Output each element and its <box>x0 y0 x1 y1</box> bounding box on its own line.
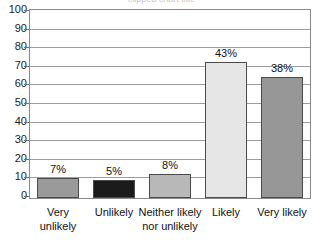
bar-value-label: 38% <box>254 62 310 74</box>
clipped-title-artifact: clipped chart title <box>0 0 323 7</box>
x-axis-category-label: Very likely <box>246 205 318 219</box>
bar[interactable] <box>93 180 136 198</box>
y-axis-tick-mark <box>24 29 29 30</box>
bar-value-label: 5% <box>86 165 142 177</box>
bar-chart: clipped chart title 10090807060504030201… <box>0 0 323 242</box>
y-axis-tick-mark <box>24 47 29 48</box>
y-axis-tick-mark <box>24 103 29 104</box>
bar[interactable] <box>261 77 304 198</box>
x-axis-label-line1: Very likely <box>257 206 307 218</box>
bar-slot: 38% <box>254 10 310 198</box>
bar[interactable] <box>37 178 80 198</box>
y-axis-tick-mark <box>24 177 29 178</box>
bar[interactable] <box>149 174 192 198</box>
y-axis-tick-mark <box>24 122 29 123</box>
y-axis-tick-mark <box>24 66 29 67</box>
x-axis-label-line1: Very <box>47 206 69 218</box>
bar-value-label: 8% <box>142 159 198 171</box>
bar-slot: 8% <box>142 10 198 198</box>
x-axis-label-line1: Likely <box>212 206 240 218</box>
bar-slot: 5% <box>86 10 142 198</box>
bar-slot: 43% <box>198 10 254 198</box>
bar[interactable] <box>205 62 248 198</box>
y-axis-tick-mark <box>24 159 29 160</box>
y-axis-tick-mark <box>24 140 29 141</box>
x-axis-label-line2: unlikely <box>22 219 94 233</box>
y-axis-tick-mark <box>24 196 29 197</box>
x-axis-label-line1: Unlikely <box>95 206 134 218</box>
bar-series: 7%5%8%43%38% <box>30 10 310 198</box>
x-axis-labels: VeryunlikelyUnlikelyNeither likelynor un… <box>30 205 310 242</box>
y-axis-tick-mark <box>24 10 29 11</box>
y-axis-tick-mark <box>24 84 29 85</box>
clipped-title-text: clipped chart title <box>128 0 196 4</box>
bar-value-label: 43% <box>198 47 254 59</box>
bar-value-label: 7% <box>30 163 86 175</box>
x-axis-label-line2: nor unlikely <box>134 219 206 233</box>
bar-slot: 7% <box>30 10 86 198</box>
